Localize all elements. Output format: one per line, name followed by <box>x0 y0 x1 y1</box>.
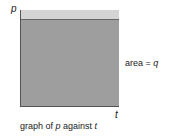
x-axis <box>20 106 119 107</box>
annotation-var: q <box>153 58 158 68</box>
annotation-prefix: area = <box>125 58 153 68</box>
caption-mid: against <box>61 121 95 131</box>
area-annotation: area = q <box>125 58 158 68</box>
plot-area <box>20 10 119 107</box>
upper-band <box>20 10 119 19</box>
caption-var-t: t <box>95 121 98 131</box>
y-axis <box>20 10 21 107</box>
caption: graph of p against t <box>20 121 97 131</box>
caption-prefix: graph of <box>20 121 56 131</box>
y-axis-label: p <box>11 4 17 14</box>
shaded-area <box>20 19 119 107</box>
x-axis-label: t <box>115 110 118 120</box>
